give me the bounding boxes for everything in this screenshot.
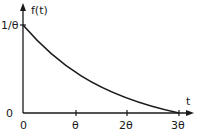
y-axis-arrow-icon bbox=[20, 3, 26, 11]
x-axis-arrow-icon bbox=[186, 110, 194, 116]
x-tick-label-theta: θ bbox=[72, 119, 79, 132]
chart: f(t) 1/θ 0 t 0 θ 2θ 3θ bbox=[0, 0, 198, 137]
x-tick-label-0: 0 bbox=[20, 119, 27, 132]
curve-f-of-t bbox=[23, 25, 179, 113]
x-tick-label-2theta: 2θ bbox=[119, 119, 133, 132]
xlabel: t bbox=[186, 95, 191, 108]
y-tick-label-top: 1/θ bbox=[1, 19, 19, 32]
ylabel: f(t) bbox=[31, 4, 48, 17]
x-tick-label-3theta: 3θ bbox=[171, 119, 185, 132]
y-tick-label-zero: 0 bbox=[6, 107, 13, 120]
